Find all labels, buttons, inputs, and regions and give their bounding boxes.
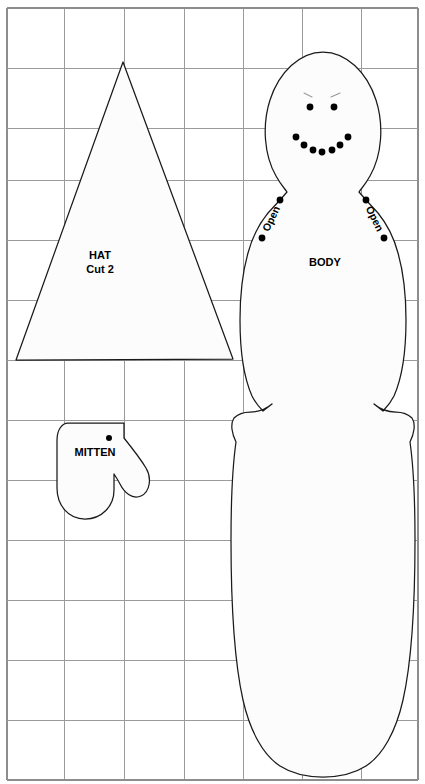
- eye-dot: [331, 104, 338, 111]
- mitten-outline[interactable]: [57, 423, 149, 519]
- mitten-label: MITTEN: [75, 446, 116, 458]
- mouth-dot: [329, 147, 336, 154]
- pattern-piece-mitten[interactable]: MITTEN: [57, 423, 149, 519]
- pattern-piece-hat[interactable]: HAT Cut 2: [16, 62, 233, 360]
- mouth-dot: [310, 147, 317, 154]
- mouth-dot: [301, 142, 308, 149]
- pattern-canvas: HAT Cut 2 MITTEN BODY Open Open: [0, 0, 425, 784]
- open-dot-top-left: [277, 197, 284, 204]
- mouth-dot: [337, 142, 344, 149]
- mouth-dot: [293, 134, 300, 141]
- mitten-mark-dot: [106, 435, 112, 441]
- mouth-dot: [319, 149, 326, 156]
- open-dot-bottom-right: [381, 235, 388, 242]
- hat-cut-label: Cut 2: [86, 263, 114, 275]
- pattern-piece-body[interactable]: BODY Open Open: [231, 52, 415, 777]
- hat-label: HAT: [89, 249, 111, 261]
- mouth-dot: [345, 134, 352, 141]
- body-label: BODY: [309, 256, 341, 268]
- pattern-sheet: HAT Cut 2 MITTEN BODY Open Open: [0, 0, 425, 784]
- open-dot-bottom-left: [259, 235, 266, 242]
- body-outline[interactable]: [231, 52, 415, 777]
- open-dot-top-right: [363, 197, 370, 204]
- eye-dot: [307, 104, 314, 111]
- hat-outline[interactable]: [16, 62, 233, 360]
